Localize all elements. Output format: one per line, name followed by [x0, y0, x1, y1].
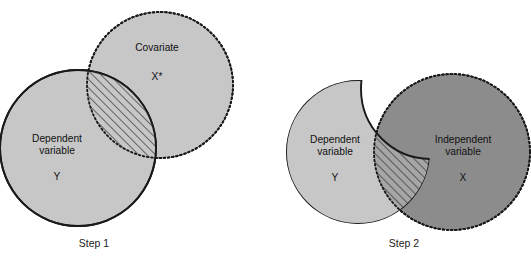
independent-variable-symbol: X	[460, 172, 467, 183]
covariate-symbol: X*	[152, 71, 163, 82]
dependent-variable-label-line2: variable	[39, 145, 75, 156]
dependent-variable-symbol: Y	[54, 171, 61, 182]
dependent-variable-label-line1: Dependent	[32, 133, 82, 144]
step2-dependent-variable-symbol: Y	[332, 172, 339, 183]
step2-caption: Step 2	[389, 237, 420, 249]
independent-variable-label-line1: Independent	[435, 134, 492, 145]
step1-caption: Step 1	[79, 237, 110, 249]
venn-diagram-figure: Covariate X* Dependent variable Y Step 1	[0, 0, 531, 259]
step1-panel: Covariate X* Dependent variable Y Step 1	[0, 12, 233, 249]
covariate-label: Covariate	[135, 42, 179, 53]
step2-panel: Independent variable X Dependent variabl…	[270, 19, 530, 259]
step2-dependent-variable-label-line1: Dependent	[310, 134, 360, 145]
step2-dependent-variable-label-line2: variable	[317, 146, 353, 157]
independent-variable-label-line2: variable	[445, 146, 481, 157]
